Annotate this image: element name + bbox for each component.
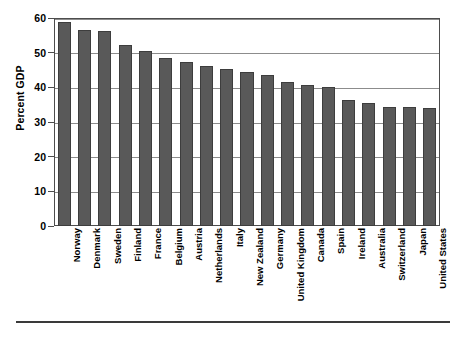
x-tick-label: United Kingdom	[294, 228, 308, 314]
bar	[403, 107, 416, 226]
x-tick-label: Ireland	[355, 228, 369, 314]
bar	[78, 30, 91, 226]
x-tick-label: Sweden	[111, 228, 125, 314]
bar-chart-figure: Percent GDP 0102030405060 NorwayDenmarkS…	[0, 0, 459, 337]
bar	[139, 51, 152, 226]
bar	[261, 75, 274, 226]
y-tick-label: 20	[18, 152, 46, 163]
x-tick-label: Austria	[192, 228, 206, 314]
bar	[98, 31, 111, 226]
bar	[322, 87, 335, 226]
y-tick-label: 40	[18, 82, 46, 93]
bar	[301, 85, 314, 226]
footer-divider	[16, 321, 450, 323]
bar	[342, 100, 355, 226]
x-tick-label: Spain	[334, 228, 348, 314]
bar	[200, 66, 213, 226]
x-tick-label: Canada	[314, 228, 328, 314]
bar-series	[54, 18, 440, 226]
bar	[220, 69, 233, 226]
y-tick-label: 30	[18, 117, 46, 128]
bar	[119, 45, 132, 226]
bar	[383, 107, 396, 226]
x-tick-label: Australia	[375, 228, 389, 314]
x-tick-label: Germany	[273, 228, 287, 314]
bar	[362, 103, 375, 226]
x-tick-label: Netherlands	[212, 228, 226, 314]
x-tick-label: Belgium	[172, 228, 186, 314]
x-axis-category-labels: NorwayDenmarkSwedenFinlandFranceBelgiumA…	[54, 228, 440, 314]
y-tick-label: 60	[18, 13, 46, 24]
x-tick-label: Italy	[233, 228, 247, 314]
bar	[281, 82, 294, 226]
x-tick-label: Denmark	[90, 228, 104, 314]
x-tick-label: Finland	[131, 228, 145, 314]
x-tick-label: New Zealand	[253, 228, 267, 314]
bar	[58, 22, 71, 226]
bar	[240, 72, 253, 226]
x-tick-label: France	[151, 228, 165, 314]
x-tick-label: Switzerland	[395, 228, 409, 314]
y-tick-label: 0	[18, 221, 46, 232]
x-tick-label: Japan	[416, 228, 430, 314]
x-tick-label: United States	[436, 228, 450, 314]
y-tick-label: 10	[18, 186, 46, 197]
y-tick-label: 50	[18, 48, 46, 59]
y-axis-title: Percent GDP	[14, 48, 26, 148]
x-tick-label: Norway	[70, 228, 84, 314]
bar	[159, 58, 172, 226]
bar	[423, 108, 436, 226]
bar	[180, 62, 193, 226]
